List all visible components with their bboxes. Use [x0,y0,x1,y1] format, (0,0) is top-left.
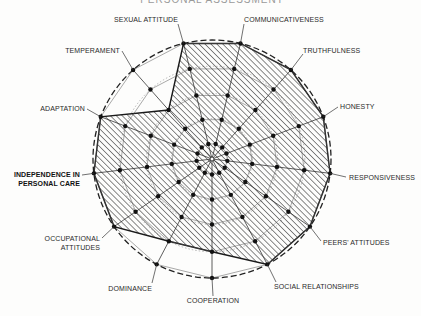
axis-label: TRUTHFULNESS [303,47,360,54]
ring-marker-dot [156,194,160,198]
label-leader-line [212,278,213,296]
ring-marker-dot [131,68,135,72]
ring-marker-dot [225,93,229,97]
ring-marker-dot [217,170,221,174]
ring-marker-dot [223,166,227,170]
ring-marker-dot [219,118,223,122]
ring-marker-dot [197,166,201,170]
axis-label: TEMPERAMENT [65,47,120,54]
axis-label: OCCUPATIONAL [45,235,100,242]
axis-label: SEXUAL ATTITUDE [114,16,178,23]
label-leader-line [240,24,244,43]
axis-label: HONESTY [340,103,375,110]
axis-label: ADAPTATION [40,105,85,112]
ring-marker-dot [133,210,137,214]
label-leader-line [102,227,114,238]
radar-chart-svg: PERSONAL ASSESSMENT COOPERATIONSOCIAL RE… [0,0,421,316]
ring-marker-dot [206,142,210,146]
ring-marker-dot [210,222,214,226]
ring-marker-dot [99,115,103,119]
label-leader-line [152,264,157,283]
ring-marker-dot [243,180,247,184]
ring-marker-dot [248,142,252,146]
ring-marker-dot [302,168,306,172]
ring-marker-dot [195,151,199,155]
ring-marker-dot [253,239,257,243]
ring-marker-dot [172,142,176,146]
axis-label: COMMUNICATIVENESS [244,16,324,23]
ring-marker-dot [200,118,204,122]
label-leader-line [87,109,101,117]
axis-label: ATTITUDES [61,244,101,251]
ring-marker-dot [275,165,279,169]
ring-marker-dot [237,127,241,131]
ring-marker-dot [271,134,275,138]
label-leader-line [178,24,184,43]
axis-label: INDEPENDENCE IN [14,171,80,178]
ring-marker-dot [297,124,301,128]
label-leader-line [310,227,321,241]
ring-marker-dot [225,159,229,163]
ring-marker-dot [194,93,198,97]
ring-marker-dot [177,180,181,184]
ring-marker-dot [166,108,170,112]
axis-label: COOPERATION [187,297,239,304]
ring-marker-dot [203,170,207,174]
axis-label: PEERS' ATTITUDES [323,239,390,246]
ring-marker-dot [224,151,228,155]
ring-marker-dot [123,124,127,128]
axis-label: SOCIAL RELATIONSHIPS [274,283,359,290]
ring-marker-dot [250,162,254,166]
ring-marker-dot [220,145,224,149]
ring-marker-dot [214,142,218,146]
ring-marker-dot [183,127,187,131]
ring-marker-dot [232,67,236,71]
ring-marker-dot [286,210,290,214]
ring-marker-dot [253,108,257,112]
ring-marker-dot [229,193,233,197]
center-point [210,157,214,161]
ring-marker-dot [200,145,204,149]
ring-marker-dot [210,197,214,201]
ring-marker-dot [188,67,192,71]
label-leader-line [122,51,133,70]
ring-marker-dot [179,215,183,219]
ring-marker-dot [210,250,214,254]
ring-marker-dot [118,168,122,172]
axis-label: PERSONAL CARE [18,180,80,187]
chart-title: PERSONAL ASSESSMENT [140,0,284,5]
label-leader-line [291,54,303,70]
ring-marker-dot [167,239,171,243]
radar-chart: PERSONAL ASSESSMENT COOPERATIONSOCIAL RE… [0,0,421,316]
ring-marker-dot [148,87,152,91]
label-leader-line [330,173,346,177]
ring-marker-dot [145,165,149,169]
ring-marker-dot [149,134,153,138]
ring-marker-dot [264,194,268,198]
ring-marker-dot [321,115,325,119]
ring-marker-dot [210,172,214,176]
axis-label: RESPONSIVENESS [349,174,415,181]
ring-marker-dot [240,215,244,219]
label-leader-line [267,264,276,282]
ring-marker-dot [191,193,195,197]
label-leader-line [323,107,338,117]
axis-label: DOMINANCE [108,285,152,292]
ring-marker-dot [194,159,198,163]
ring-marker-dot [170,162,174,166]
ring-marker-dot [271,87,275,91]
